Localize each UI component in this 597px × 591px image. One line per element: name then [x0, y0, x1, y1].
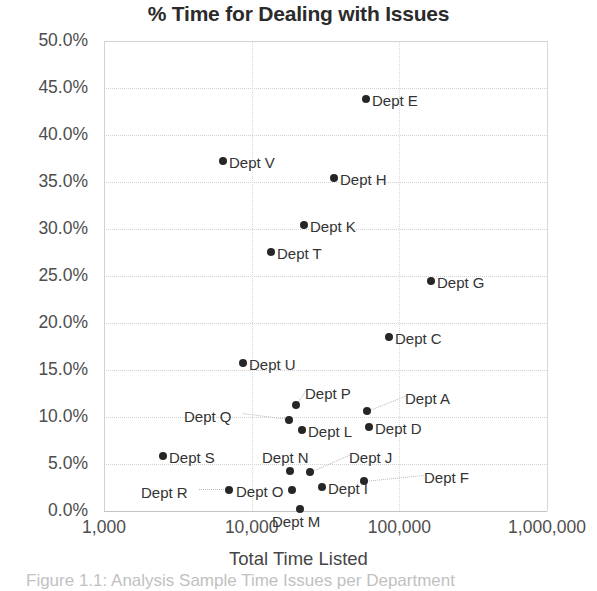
- data-point-label: Dept V: [229, 154, 275, 171]
- data-point-label: Dept R: [141, 484, 188, 501]
- x-axis-tick-label: 100,000: [368, 517, 431, 538]
- gridline-vertical: [252, 41, 253, 511]
- data-point[interactable]: [159, 452, 167, 460]
- data-point-label: Dept U: [249, 356, 296, 373]
- gridline-horizontal: [104, 323, 547, 324]
- data-point[interactable]: [288, 486, 296, 494]
- data-point-label: Dept L: [308, 423, 352, 440]
- data-point-label: Dept C: [395, 330, 442, 347]
- data-point[interactable]: [330, 174, 338, 182]
- x-axis-tick-label: 1,000: [82, 517, 126, 538]
- data-point-label: Dept F: [424, 469, 469, 486]
- gridline-horizontal: [104, 370, 547, 371]
- data-point[interactable]: [365, 423, 373, 431]
- x-axis-tick-label: 1,000,000: [508, 517, 586, 538]
- data-point[interactable]: [385, 333, 393, 341]
- data-point-label: Dept J: [349, 449, 392, 466]
- gridline-horizontal: [104, 417, 547, 418]
- y-axis-tick-label: 30.0%: [0, 218, 88, 239]
- plot-border-top: [104, 41, 547, 42]
- data-point[interactable]: [225, 486, 233, 494]
- data-point[interactable]: [318, 483, 326, 491]
- data-point[interactable]: [239, 359, 247, 367]
- data-point-label: Dept T: [277, 245, 322, 262]
- data-point[interactable]: [306, 468, 314, 476]
- data-point[interactable]: [300, 221, 308, 229]
- data-point-label: Dept K: [310, 218, 356, 235]
- figure-caption: Figure 1.1: Analysis Sample Time Issues …: [0, 574, 597, 591]
- data-point[interactable]: [219, 157, 227, 165]
- data-point[interactable]: [292, 401, 300, 409]
- plot-border-right: [547, 41, 548, 511]
- data-point[interactable]: [267, 248, 275, 256]
- data-point[interactable]: [362, 95, 370, 103]
- y-axis-tick-label: 20.0%: [0, 312, 88, 333]
- data-point-label: Dept H: [340, 171, 387, 188]
- data-point[interactable]: [296, 505, 304, 513]
- gridline-horizontal: [104, 135, 547, 136]
- x-axis-tick-label: 10,000: [225, 517, 279, 538]
- y-axis-tick-label: 40.0%: [0, 124, 88, 145]
- y-axis-tick-label: 35.0%: [0, 171, 88, 192]
- y-axis-tick-label: 0.0%: [0, 500, 88, 521]
- data-point-label: Dept E: [372, 92, 418, 109]
- y-axis-tick-label: 50.0%: [0, 30, 88, 51]
- data-point-label: Dept M: [272, 513, 320, 530]
- data-point-label: Dept Q: [184, 408, 232, 425]
- data-point-label: Dept A: [405, 390, 450, 407]
- data-point[interactable]: [285, 416, 293, 424]
- data-point-label: Dept G: [437, 274, 485, 291]
- gridline-horizontal: [104, 88, 547, 89]
- data-point[interactable]: [286, 467, 294, 475]
- data-point-label: Dept S: [169, 449, 215, 466]
- x-axis-title: Total Time Listed: [0, 548, 597, 570]
- data-point-label: Dept I: [328, 480, 368, 497]
- data-point[interactable]: [298, 426, 306, 434]
- data-point-label: Dept P: [305, 385, 351, 402]
- figure-caption-text: Figure 1.1: Analysis Sample Time Issues …: [26, 574, 455, 591]
- y-axis-tick-label: 10.0%: [0, 406, 88, 427]
- gridline-horizontal: [104, 182, 547, 183]
- data-point-label: Dept N: [262, 449, 309, 466]
- y-axis-tick-label: 25.0%: [0, 265, 88, 286]
- data-point-label: Dept O: [236, 483, 284, 500]
- data-point[interactable]: [427, 277, 435, 285]
- y-axis-tick-label: 45.0%: [0, 77, 88, 98]
- data-point-label: Dept D: [375, 420, 422, 437]
- chart-root: % Time for Dealing with Issues 0.0%5.0%1…: [0, 0, 597, 591]
- x-axis-line: [104, 511, 547, 512]
- data-point[interactable]: [363, 407, 371, 415]
- y-axis-tick-label: 15.0%: [0, 359, 88, 380]
- chart-title: % Time for Dealing with Issues: [0, 2, 597, 26]
- gridline-vertical: [399, 41, 400, 511]
- y-axis-tick-label: 5.0%: [0, 453, 88, 474]
